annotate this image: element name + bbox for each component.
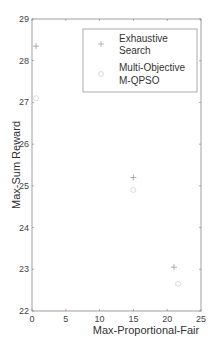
x-tick-label: 25 bbox=[196, 314, 206, 324]
plus-marker bbox=[130, 175, 136, 181]
legend-label-mqpso: M-QPSO bbox=[119, 75, 160, 86]
scatter-chart: 0510152025 2223242526272829 Max-Proporti… bbox=[0, 0, 216, 353]
y-tick-label: 27 bbox=[19, 97, 29, 107]
x-axis-label: Max-Proportional-Fair bbox=[93, 324, 200, 336]
circle-marker bbox=[131, 188, 136, 193]
y-tick-label: 23 bbox=[19, 264, 29, 274]
y-axis-label: Max-Sum Reward bbox=[10, 121, 22, 209]
x-tick-label: 5 bbox=[63, 314, 68, 324]
legend-label-multiobjective: Multi-Objective bbox=[119, 62, 186, 73]
circle-marker bbox=[34, 96, 39, 101]
plus-marker bbox=[33, 43, 39, 49]
circle-marker bbox=[176, 281, 181, 286]
y-tick-label: 24 bbox=[19, 223, 29, 233]
legend-label-exhaustive: Exhaustive bbox=[119, 33, 168, 44]
x-tick-label: 15 bbox=[128, 314, 138, 324]
legend: Exhaustive Search Multi-Objective M-QPSO bbox=[83, 29, 197, 92]
plus-marker bbox=[171, 264, 177, 270]
y-tick-label: 22 bbox=[19, 306, 29, 316]
x-tick-label: 10 bbox=[95, 314, 105, 324]
x-tick-label: 20 bbox=[162, 314, 172, 324]
x-tick-label: 0 bbox=[29, 314, 34, 324]
legend-label-search: Search bbox=[119, 45, 151, 56]
y-tick-label: 29 bbox=[19, 14, 29, 24]
y-tick-label: 28 bbox=[19, 56, 29, 66]
